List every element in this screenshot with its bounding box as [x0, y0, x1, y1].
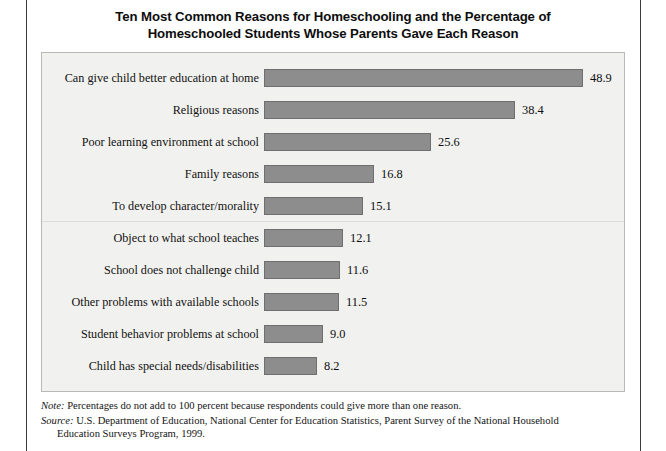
bar-track: 11.6 — [264, 254, 624, 286]
bar-category-label: Child has special needs/disabilities — [42, 359, 264, 373]
bar-track: 9.0 — [264, 318, 624, 350]
figure-frame-left-rule — [26, 0, 27, 451]
footnote-note: Note: Percentages do not add to 100 perc… — [41, 399, 635, 413]
bar-row: Religious reasons38.4 — [42, 94, 624, 126]
bar-track: 11.5 — [264, 286, 624, 318]
bar-track: 16.8 — [264, 158, 624, 190]
footnote-source-text: U.S. Department of Education, National C… — [74, 415, 559, 426]
bar — [264, 229, 343, 247]
bar-row: School does not challenge child11.6 — [42, 254, 624, 286]
bar-category-label: To develop character/morality — [42, 199, 264, 213]
bar-value-label: 11.6 — [347, 262, 368, 278]
bar-category-label: Other problems with available schools — [42, 295, 264, 309]
bar-value-label: 8.2 — [324, 358, 340, 374]
bar-value-label: 25.6 — [438, 134, 460, 150]
bar-track: 12.1 — [264, 222, 624, 254]
figure-frame-right-rule — [640, 0, 641, 451]
bar-category-label: Object to what school teaches — [42, 231, 264, 245]
footnotes: Note: Percentages do not add to 100 perc… — [41, 399, 635, 442]
bar — [264, 293, 339, 311]
chart-title-line-2: Homeschooled Students Whose Parents Gave… — [40, 25, 626, 42]
bar — [264, 357, 317, 375]
bar — [264, 197, 363, 215]
bar-track: 25.6 — [264, 126, 624, 158]
bar-category-label: Student behavior problems at school — [42, 327, 264, 341]
chart-title-line-1: Ten Most Common Reasons for Homeschoolin… — [40, 8, 626, 25]
bar-row: Student behavior problems at school9.0 — [42, 318, 624, 350]
bar-track: 8.2 — [264, 350, 624, 382]
footnote-source-text-continued: Education Surveys Program, 1999. — [41, 427, 635, 441]
bar — [264, 261, 340, 279]
bar — [264, 165, 374, 183]
bar — [264, 69, 583, 87]
bar — [264, 133, 431, 151]
figure-container: Ten Most Common Reasons for Homeschoolin… — [0, 0, 666, 451]
bar — [264, 325, 323, 343]
bar-row: Family reasons16.8 — [42, 158, 624, 190]
bar-track: 38.4 — [264, 94, 624, 126]
bar-value-label: 38.4 — [522, 102, 544, 118]
bar-value-label: 15.1 — [370, 198, 392, 214]
bar-category-label: Can give child better education at home — [42, 71, 264, 85]
bar-value-label: 11.5 — [346, 294, 367, 310]
bar-value-label: 9.0 — [330, 326, 346, 342]
bar-rows: Can give child better education at home4… — [42, 62, 624, 382]
bar-category-label: School does not challenge child — [42, 263, 264, 277]
bar-value-label: 16.8 — [381, 166, 403, 182]
bar-row: Can give child better education at home4… — [42, 62, 624, 94]
chart-title: Ten Most Common Reasons for Homeschoolin… — [40, 8, 626, 42]
bar-track: 48.9 — [264, 62, 624, 94]
footnote-note-lead: Note: — [41, 400, 65, 411]
bar-category-label: Religious reasons — [42, 103, 264, 117]
bar-row: Child has special needs/disabilities8.2 — [42, 350, 624, 382]
bar-value-label: 48.9 — [590, 70, 612, 86]
bar-value-label: 12.1 — [350, 230, 372, 246]
bar-category-label: Family reasons — [42, 167, 264, 181]
bar-row: Object to what school teaches12.1 — [42, 222, 624, 254]
bar-row: To develop character/morality15.1 — [42, 190, 624, 222]
footnote-note-text: Percentages do not add to 100 percent be… — [65, 400, 462, 411]
bar-row: Other problems with available schools11.… — [42, 286, 624, 318]
footnote-source-lead: Source: — [41, 415, 74, 426]
plot-area: Can give child better education at home4… — [41, 52, 625, 392]
bar-track: 15.1 — [264, 190, 624, 222]
footnote-source: Source: U.S. Department of Education, Na… — [41, 414, 635, 441]
bar — [264, 101, 515, 119]
bar-row: Poor learning environment at school25.6 — [42, 126, 624, 158]
bar-category-label: Poor learning environment at school — [42, 135, 264, 149]
